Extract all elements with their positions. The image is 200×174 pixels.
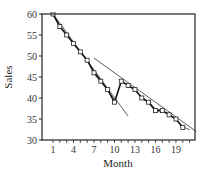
y-tick-label: 40 xyxy=(27,93,37,104)
sales-line-chart: 3035404550556014710131619 Month Sales xyxy=(0,0,200,174)
x-tick-label: 10 xyxy=(109,144,119,155)
x-tick-label: 1 xyxy=(51,144,56,155)
data-point-marker xyxy=(147,100,151,104)
x-tick-label: 13 xyxy=(130,144,140,155)
axes: 3035404550556014710131619 xyxy=(27,9,195,156)
x-tick-label: 16 xyxy=(150,144,160,155)
data-point-marker xyxy=(153,109,157,113)
data-point-marker xyxy=(174,117,178,121)
data-point-marker xyxy=(119,79,123,83)
y-tick-label: 60 xyxy=(27,9,37,20)
data-point-marker xyxy=(92,71,96,75)
y-tick-label: 55 xyxy=(27,30,37,41)
data-point-marker xyxy=(140,96,144,100)
x-tick-label: 4 xyxy=(71,144,76,155)
x-tick-label: 19 xyxy=(171,144,181,155)
data-point-marker xyxy=(99,79,103,83)
series-group xyxy=(51,12,196,132)
trend-line xyxy=(94,58,196,132)
data-point-marker xyxy=(112,100,116,104)
y-tick-label: 50 xyxy=(27,51,37,62)
data-point-marker xyxy=(78,50,82,54)
data-point-marker xyxy=(181,125,185,129)
data-point-marker xyxy=(71,41,75,45)
data-point-marker xyxy=(167,113,171,117)
data-point-marker xyxy=(85,58,89,62)
data-point-marker xyxy=(133,88,137,92)
x-tick-label: 7 xyxy=(91,144,96,155)
data-point-marker xyxy=(126,83,130,87)
y-tick-label: 30 xyxy=(27,135,37,146)
y-tick-label: 35 xyxy=(27,114,37,125)
x-axis-label: Month xyxy=(103,157,133,169)
data-point-marker xyxy=(160,109,164,113)
y-axis-label: Sales xyxy=(2,65,14,88)
y-tick-label: 45 xyxy=(27,72,37,83)
series-layer xyxy=(51,12,196,132)
data-point-marker xyxy=(106,88,110,92)
data-point-marker xyxy=(65,33,69,37)
data-point-marker xyxy=(58,25,62,29)
